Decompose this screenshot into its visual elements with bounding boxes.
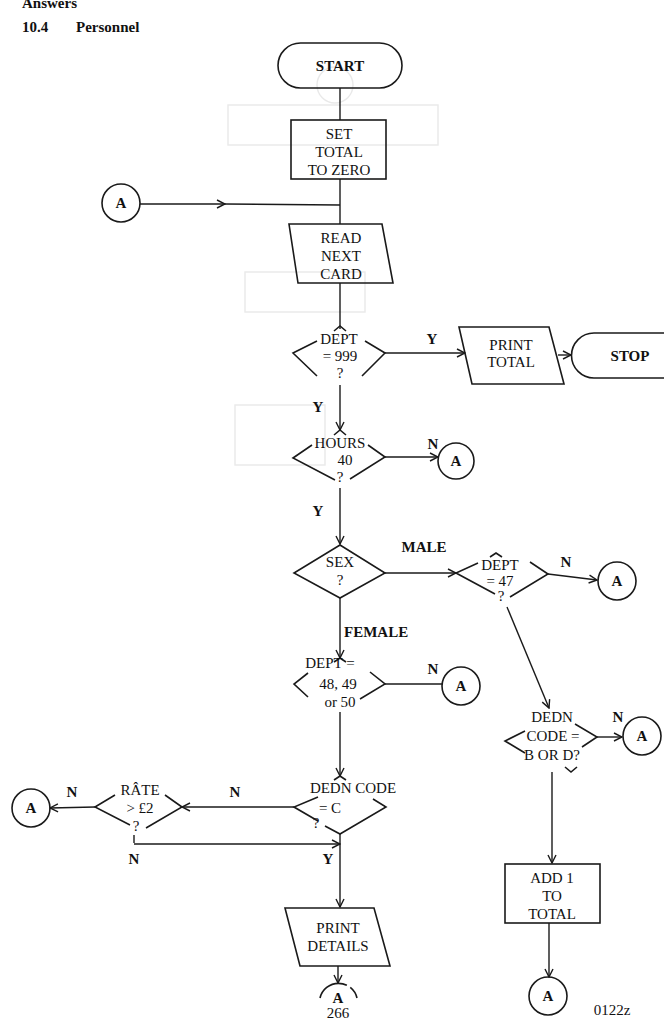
personnel-flowchart: Answers 10.4 Personnel START SET TOTAL T… [0,0,664,1021]
decision-dedn-b-or-d: DEDN CODE = B OR D? [505,709,597,772]
svg-text:N: N [428,436,439,452]
svg-text:A: A [333,990,344,1006]
svg-text:?: ? [337,572,344,588]
svg-text:N: N [230,784,241,800]
set-total-zero-process: SET TOTAL TO ZERO [291,120,386,179]
svg-text:= 999: = 999 [323,348,358,364]
svg-text:MALE: MALE [402,539,447,555]
svg-text:DETAILS: DETAILS [307,938,368,954]
svg-text:DEDN: DEDN [531,709,573,725]
decision-hours-40: HOURS 40 ? [293,430,385,485]
svg-text:TO: TO [542,888,562,904]
svg-text:READ: READ [321,230,362,246]
svg-text:TO ZERO: TO ZERO [308,162,371,178]
svg-text:N: N [129,851,140,867]
svg-text:START: START [316,58,364,74]
svg-text:48, 49: 48, 49 [319,676,357,692]
svg-text:= 47: = 47 [486,573,514,589]
decision-dept-47: DEPT = 47 ? [456,553,548,604]
connector-a-entry: A [102,184,140,222]
svg-text:N: N [67,784,78,800]
svg-text:?: ? [133,818,140,834]
section-number: 10.4 [22,19,49,35]
connector-a-add-total: A [529,977,567,1015]
stop-terminal: STOP [572,333,664,378]
svg-text:CODE =: CODE = [526,728,579,744]
svg-text:PRINT: PRINT [489,337,532,353]
svg-text:N: N [613,709,624,725]
decision-sex: SEX ? [294,545,385,598]
svg-text:TOTAL: TOTAL [528,906,576,922]
svg-text:FEMALE: FEMALE [344,624,408,640]
svg-text:RÂTE: RÂTE [120,782,159,798]
figure-code: 0122z [594,1002,631,1018]
svg-text:A: A [451,453,462,469]
svg-text:Y: Y [427,331,438,347]
svg-text:N: N [561,554,572,570]
decision-rate-over-2: RÂTE > £2 ? [95,782,182,834]
svg-text:or 50: or 50 [324,694,355,710]
svg-text:A: A [543,988,554,1004]
add-one-to-total-process: ADD 1 TO TOTAL [505,864,600,923]
svg-text:?: ? [337,365,344,381]
start-terminal: START [278,43,402,88]
svg-text:Y: Y [323,851,334,867]
connector-a-dedn-bd: A [623,717,661,755]
svg-text:PRINT: PRINT [316,920,359,936]
print-total-io: PRINT TOTAL [459,327,564,384]
svg-text:DEDN CODE: DEDN CODE [310,780,396,796]
connector-a-print-details: A [320,983,357,1006]
svg-text:A: A [612,573,623,589]
svg-text:?: ? [337,469,344,485]
svg-text:SEX: SEX [326,554,355,570]
connector-a-hours: A [438,443,474,479]
svg-text:NEXT: NEXT [321,248,361,264]
svg-text:DEPT: DEPT [320,331,358,347]
svg-text:40: 40 [338,452,353,468]
decision-dedn-code-c: DEDN CODE = C ? [294,776,396,834]
svg-text:> £2: > £2 [126,800,153,816]
svg-text:?: ? [313,815,320,831]
decision-dept-48-49-50: DEPT = 48, 49 or 50 [294,655,385,710]
svg-text:A: A [116,195,127,211]
svg-text:ADD 1: ADD 1 [530,870,574,886]
svg-text:Y: Y [313,399,324,415]
svg-text:A: A [456,678,467,694]
svg-text:= C: = C [319,800,341,816]
page-number: 266 [327,1005,350,1021]
svg-text:?: ? [498,588,505,604]
connector-a-rate: A [12,789,50,827]
svg-text:STOP: STOP [611,348,650,364]
svg-text:CARD: CARD [320,266,362,282]
svg-text:TOTAL: TOTAL [487,354,535,370]
svg-text:Y: Y [313,503,324,519]
connector-a-dept47: A [598,562,636,600]
read-next-card-io: READ NEXT CARD [289,224,393,283]
svg-text:DEPT =: DEPT = [305,655,354,671]
svg-text:N: N [428,661,439,677]
svg-text:DEPT: DEPT [481,557,519,573]
print-details-io: PRINT DETAILS [285,908,390,966]
section-title: Personnel [76,19,139,35]
svg-text:A: A [26,800,37,816]
top-fragment: Answers [22,0,77,11]
svg-text:B OR D?: B OR D? [524,747,580,763]
svg-text:A: A [637,728,648,744]
svg-text:TOTAL: TOTAL [315,144,363,160]
svg-text:HOURS: HOURS [315,435,366,451]
connector-a-dept48: A [442,667,480,705]
decision-dept-999: DEPT = 999 ? [293,326,385,381]
svg-text:SET: SET [326,126,353,142]
